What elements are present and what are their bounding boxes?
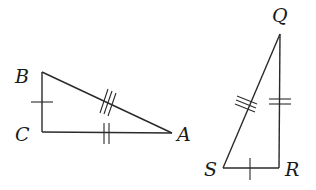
side-qr: [279, 34, 280, 168]
triple-tick-mark-qs: [235, 96, 257, 112]
vertex-label-b: B: [14, 65, 29, 87]
vertex-label-c: C: [15, 123, 30, 145]
congruent-triangles-diagram: B C A Q S R: [0, 0, 316, 190]
vertex-label-q: Q: [272, 4, 288, 26]
vertex-label-s: S: [204, 158, 217, 180]
vertex-label-r: R: [284, 158, 299, 180]
side-ab: [42, 72, 172, 133]
side-ca: [42, 132, 172, 133]
double-tick-mark-ca: [104, 123, 109, 144]
side-qs: [223, 34, 280, 168]
vertex-label-a: A: [175, 123, 191, 145]
triangle-abc: B C A: [14, 65, 191, 145]
triple-tick-mark-ab: [100, 89, 116, 116]
triangle-qrs: Q S R: [204, 4, 299, 180]
